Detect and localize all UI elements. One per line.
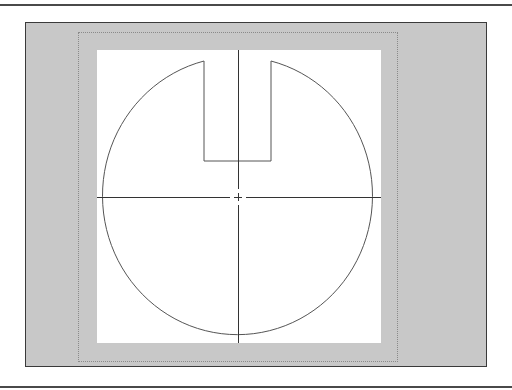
cad-drawing: [0, 0, 512, 390]
centerlines: [97, 50, 381, 343]
bottom-rule: [0, 386, 512, 388]
